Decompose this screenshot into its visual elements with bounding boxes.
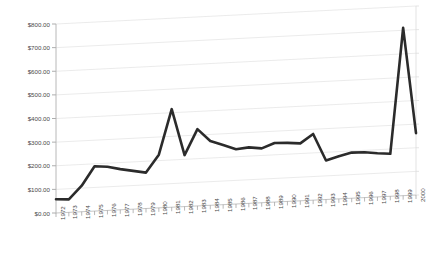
x-axis-tick-label: 1992 [316,193,323,207]
x-axis-tick-label: 1987 [251,197,258,211]
y-axis-tick-label: $0.00 [35,210,50,217]
chart-container: $0.00$100.00$200.00$300.00$400.00$500.00… [0,0,438,280]
x-axis-tick-label: 1973 [71,206,78,220]
axis-lines-group [52,6,419,217]
x-axis-tick-label: 1979 [149,202,156,216]
gridlines-group [56,6,416,213]
x-axis-tick-label: 1981 [174,200,181,214]
gridline [56,124,416,142]
x-axis-tick-label: 1986 [239,197,246,211]
x-axis-tick-label: 1972 [59,206,66,220]
y-axis-tick-label: $400.00 [28,115,50,122]
gridline [56,101,416,119]
x-axis-tick-label: 1998 [393,190,400,204]
y-axis-tick-label: $600.00 [28,68,50,75]
y-axis-tick-label: $500.00 [28,91,50,98]
x-axis-tick-label: 1997 [380,190,387,204]
x-axis-tick-label: 1990 [290,195,297,209]
x-axis-tick-label: 1991 [303,194,310,208]
gridline [56,77,416,95]
y-axis-tick-label: $300.00 [28,139,50,146]
y-axis-tick-label: $200.00 [28,162,50,169]
x-axis-tick-label: 2000 [419,188,426,202]
x-axis-tick-label: 1996 [367,191,374,205]
x-axis-tick-label: 1988 [264,196,271,210]
x-axis-tick-label: 1985 [226,198,233,212]
x-axis-tick-label: 1993 [329,193,336,207]
x-axis-tick-label: 1977 [123,203,130,217]
data-line [56,28,416,199]
gridline [56,171,416,189]
chart-plot-area [0,0,438,280]
y-axis-tick-label: $700.00 [28,44,50,51]
x-axis-tick-label: 1984 [213,199,220,213]
x-axis-tick-label: 1982 [187,200,194,214]
x-axis-tick-label: 1980 [161,201,168,215]
gridline [56,6,416,24]
gridline [56,53,416,71]
x-axis-tick-label: 1999 [406,189,413,203]
x-axis-tick-label: 1975 [97,204,104,218]
x-axis-tick-label: 1978 [136,202,143,216]
y-axis-tick-label: $800.00 [28,21,50,28]
gridline [56,30,416,48]
x-axis-tick-label: 1974 [84,205,91,219]
x-axis-tick-label: 1994 [341,192,348,206]
y-axis-tick-label: $100.00 [28,186,50,193]
x-axis-tick-label: 1995 [354,191,361,205]
data-series-group [56,28,416,199]
x-axis-tick-label: 1976 [110,204,117,218]
x-axis-tick-label: 1983 [200,199,207,213]
x-axis-tick-label: 1989 [277,195,284,209]
